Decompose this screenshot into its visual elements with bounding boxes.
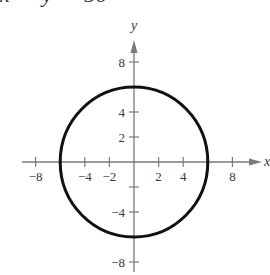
chart-figure: x² + y² = 36 −8−4−2248842−4−8 x y [0,0,270,275]
x-tick-label: 2 [155,169,162,184]
x-tick-label: 4 [180,169,187,184]
x-axis-arrow-icon [249,159,262,166]
y-axis-arrow-icon [131,40,138,53]
equation-text: x² + y² = 36 [0,0,106,7]
y-axis-label: y [129,18,138,33]
y-tick-label: 8 [119,55,126,70]
y-tick-label: 2 [119,130,126,145]
x-tick-label: −4 [78,169,92,184]
y-tick-label: −8 [111,255,125,270]
x-tick-label: −2 [102,169,116,184]
y-tick-label: −4 [111,205,125,220]
x-tick-label: −8 [29,169,43,184]
y-tick-label: 4 [119,105,126,120]
coordinate-plane: x² + y² = 36 −8−4−2248842−4−8 x y [0,0,270,275]
x-tick-label: 8 [229,169,236,184]
x-axis-label: x [263,154,270,169]
clipped-equation: x² + y² = 36 [0,0,106,7]
